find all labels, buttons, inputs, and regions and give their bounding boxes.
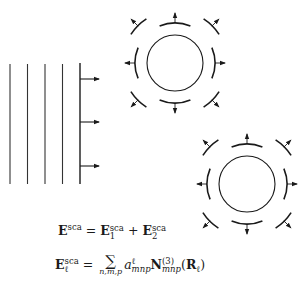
- eq2-vec-scripts: (3)mnp: [162, 257, 181, 273]
- eq1-equals: =: [86, 223, 96, 238]
- arrow-down-left-icon: [131, 100, 138, 107]
- eq2-equals: =: [83, 257, 93, 272]
- eq1-term1-scripts: sca1: [110, 224, 124, 240]
- eq1-term2-scripts: sca2: [152, 224, 166, 240]
- sum-index: n,m,p: [99, 268, 122, 276]
- sphere-1: [125, 13, 225, 113]
- sum-symbol: ∑: [99, 254, 122, 268]
- arrow-up-left-icon: [131, 19, 138, 26]
- eq2-coef-sub: mnp: [132, 265, 151, 273]
- sphere-1-body: [147, 35, 203, 91]
- eq2-vec-sub: mnp: [162, 265, 181, 273]
- eq1-lhs-symbol: E: [58, 223, 68, 238]
- eq2-summation: ∑n,m,p: [99, 254, 122, 276]
- eq1-lhs-sup: sca: [68, 222, 82, 232]
- eq2-arg-close: ): [200, 257, 205, 272]
- propagation-arrows: [80, 79, 99, 166]
- eq2-lhs-symbol: E: [55, 257, 65, 272]
- eq2-arg-symbol: R: [186, 257, 196, 272]
- sphere-2-body: [219, 156, 275, 212]
- sphere-2: [197, 134, 297, 234]
- scattering-diagram: [0, 0, 307, 293]
- sphere-2-radial-arrows: [197, 134, 297, 234]
- equation-total-scattered-field: Esca = Esca1 + Esca2: [58, 222, 166, 240]
- eq2-lhs-scripts: scaℓ: [65, 257, 79, 273]
- eq1-plus: +: [128, 223, 138, 238]
- eq2-vec-symbol: N: [151, 257, 162, 272]
- arrow-up-right-icon: [212, 19, 219, 26]
- equation-partial-scattered-field: Escaℓ = ∑n,m,paℓmnpN(3)mnp(Rℓ): [55, 254, 205, 276]
- eq1-term2-sub: 2: [152, 232, 166, 240]
- arrow-up-left-icon: [203, 140, 210, 147]
- arrow-up-right-icon: [284, 140, 291, 147]
- arrow-down-left-icon: [203, 221, 210, 228]
- eq2-coef-scripts: ℓmnp: [132, 257, 151, 273]
- incident-wavefronts: [10, 63, 80, 184]
- eq2-coef-symbol: a: [124, 257, 131, 272]
- sphere-2-outgoing-wave: [203, 140, 291, 228]
- sphere-1-outgoing-wave: [131, 19, 219, 107]
- eq1-term1-sub: 1: [110, 232, 124, 240]
- arrow-down-right-icon: [212, 100, 219, 107]
- arrow-down-right-icon: [284, 221, 291, 228]
- eq2-lhs-sub: ℓ: [65, 265, 79, 273]
- sphere-1-radial-arrows: [125, 13, 225, 113]
- eq1-term2-symbol: E: [142, 223, 152, 238]
- eq1-term1-symbol: E: [100, 223, 110, 238]
